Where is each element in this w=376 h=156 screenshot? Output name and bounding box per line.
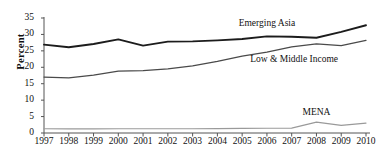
series-label-emerging-asia: Emerging Asia [239, 18, 296, 28]
series-line-mena [44, 122, 366, 129]
series-label-low-and-middle-income: Low & Middle Income [250, 54, 338, 64]
series-label-mena: MENA [302, 107, 330, 117]
